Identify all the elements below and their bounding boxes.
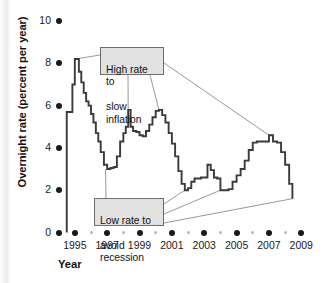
chart-figure: Overnight rate (percent per year) Year 0… [0,0,328,283]
y-tick-label: 0 [31,226,51,238]
x-tick-dot [72,230,78,236]
x-tick-dot-minor [90,231,93,234]
x-tick-dot-minor [187,231,190,234]
y-tick-label: 2 [31,183,51,195]
x-tick-label: 1995 [58,239,92,251]
annotation-high-rate: High rate to slow inflation [100,47,164,75]
annotation-low-rate-line1: Low rate to [100,215,159,228]
annotation-low-rate: Low rate to avoid recession [94,198,164,226]
y-tick-label: 6 [31,99,51,111]
annotation-high-rate-line1: High rate to [106,64,159,89]
leader-line [164,190,220,214]
x-tick-dot-minor [219,231,222,234]
x-tick-dot [298,230,304,236]
x-tick-dot-minor [284,231,287,234]
y-tick-dot [56,145,62,151]
leader-line [164,190,185,204]
x-tick-label: 2003 [187,239,221,251]
x-tick-label: 2009 [284,239,318,251]
annotation-low-rate-line2: avoid recession [100,240,159,265]
y-tick-label: 4 [31,141,51,153]
y-tick-dot [56,103,62,109]
leader-line [164,63,269,135]
x-tick-dot [266,230,272,236]
x-tick-label: 2005 [220,239,254,251]
annotation-high-rate-line2: slow inflation [106,101,159,126]
y-tick-dot [56,230,62,236]
y-tick-label: 8 [31,56,51,68]
leader-line [164,199,292,223]
x-tick-dot [169,230,175,236]
x-tick-label: 2007 [252,239,286,251]
x-tick-dot [234,230,240,236]
x-tick-label: 2001 [155,239,189,251]
x-tick-dot [201,230,207,236]
y-tick-label: 10 [31,14,51,26]
y-tick-dot [56,18,62,24]
